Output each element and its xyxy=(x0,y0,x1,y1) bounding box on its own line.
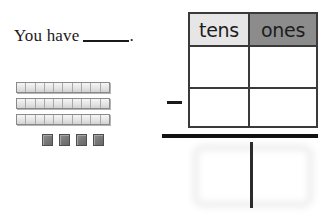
cell-subtrahend-tens[interactable] xyxy=(190,89,250,126)
unit-cube xyxy=(59,134,70,146)
rod-segment xyxy=(91,99,100,108)
answer-separator-bar xyxy=(162,134,318,138)
rod-segment xyxy=(73,99,82,108)
prompt-sentence: You have. xyxy=(14,26,134,46)
ten-rod xyxy=(16,82,110,93)
rod-segment xyxy=(17,99,26,108)
answer-column-divider xyxy=(250,142,253,208)
cell-subtrahend-ones[interactable] xyxy=(250,89,316,126)
unit-cube xyxy=(42,134,53,146)
rod-segment xyxy=(101,83,109,92)
base-ten-blocks-group xyxy=(16,82,136,130)
answer-area xyxy=(192,144,314,208)
cell-minuend-tens[interactable] xyxy=(190,47,250,87)
answer-box-outline xyxy=(192,144,314,208)
rod-segment xyxy=(54,115,63,124)
minus-operator-icon xyxy=(167,101,182,104)
rod-segment xyxy=(17,115,26,124)
ten-rod xyxy=(16,114,110,125)
rod-segment xyxy=(54,99,63,108)
prompt-trailing-text: . xyxy=(130,26,134,45)
rod-segment xyxy=(82,115,91,124)
column-header-tens: tens xyxy=(190,14,250,45)
unit-cube xyxy=(76,134,87,146)
rod-segment xyxy=(17,83,26,92)
rod-segment xyxy=(91,83,100,92)
rod-segment xyxy=(82,83,91,92)
rod-segment xyxy=(101,115,109,124)
rod-segment xyxy=(73,115,82,124)
rod-segment xyxy=(45,115,54,124)
rod-segment xyxy=(36,115,45,124)
rod-segment xyxy=(26,83,35,92)
rod-segment xyxy=(54,83,63,92)
prompt-lead-text: You have xyxy=(14,26,80,45)
rod-segment xyxy=(26,115,35,124)
cell-minuend-ones[interactable] xyxy=(250,47,316,87)
worksheet-page: You have. xyxy=(0,0,327,216)
rod-segment xyxy=(101,99,109,108)
rod-segment xyxy=(91,115,100,124)
rod-segment xyxy=(63,99,72,108)
place-value-table: tens ones xyxy=(188,12,318,128)
rod-segment xyxy=(26,99,35,108)
rod-segment xyxy=(45,99,54,108)
rod-segment xyxy=(36,99,45,108)
rod-segment xyxy=(73,83,82,92)
rod-segment xyxy=(63,115,72,124)
rod-segment xyxy=(82,99,91,108)
rod-segment xyxy=(45,83,54,92)
table-row xyxy=(190,45,316,87)
table-header-row: tens ones xyxy=(190,14,316,45)
prompt-blank-input[interactable] xyxy=(83,40,129,42)
rod-segment xyxy=(63,83,72,92)
table-row xyxy=(190,87,316,126)
unit-cube xyxy=(93,134,104,146)
rod-segment xyxy=(36,83,45,92)
ten-rod xyxy=(16,98,110,109)
column-header-ones: ones xyxy=(250,14,316,45)
unit-cubes-group xyxy=(42,134,104,146)
